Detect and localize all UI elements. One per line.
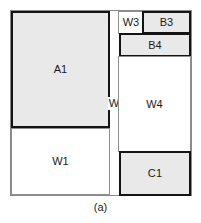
block-b4: B4 xyxy=(119,33,191,57)
block-a1-label: A1 xyxy=(54,64,68,75)
cutting-stock-packing-figure: A1 W1 W2 W3 B3 B4 W4 C1 (a) xyxy=(0,0,201,223)
block-c1-label: C1 xyxy=(148,168,162,179)
block-w3: W3 xyxy=(118,11,144,34)
block-w1: W1 xyxy=(11,128,110,195)
block-c1: C1 xyxy=(119,151,191,196)
block-b3-label: B3 xyxy=(160,17,174,28)
block-w4: W4 xyxy=(118,56,191,152)
block-b4-label: B4 xyxy=(148,40,162,51)
block-b3: B3 xyxy=(142,11,191,34)
figure-caption: (a) xyxy=(0,201,201,213)
block-a1: A1 xyxy=(11,11,110,128)
block-w4-label: W4 xyxy=(146,99,163,110)
block-w1-label: W1 xyxy=(52,156,69,167)
block-w3-label: W3 xyxy=(123,17,140,28)
